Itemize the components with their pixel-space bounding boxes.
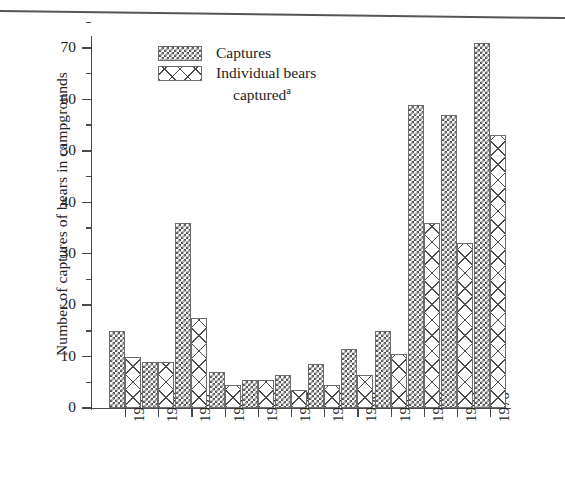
y-tick-major: 50: [82, 150, 91, 151]
bar-individual-bears: [158, 362, 174, 408]
x-tick: [490, 409, 491, 417]
bar-captures: [175, 223, 191, 408]
bar-individual-bears: [191, 318, 207, 408]
legend-item-individual-bears: Individual bearscaptureda: [158, 64, 388, 104]
y-tick-major: 70: [82, 47, 91, 48]
bar-individual-bears: [490, 135, 506, 408]
x-tick: [258, 409, 259, 417]
bar-individual-bears: [258, 380, 274, 408]
bar-individual-bears: [457, 243, 473, 408]
x-tick: [158, 409, 159, 417]
y-tick-minor: [86, 22, 92, 23]
x-tick: [291, 409, 292, 417]
bar-individual-bears: [324, 385, 340, 408]
legend-superscript: a: [286, 85, 291, 96]
bar-individual-bears: [225, 385, 241, 408]
legend-label-line2: captureda: [216, 82, 316, 104]
y-tick-label: 40: [42, 192, 76, 211]
legend: Captures Individual bearscaptureda: [158, 44, 388, 106]
y-tick-minor: [86, 382, 92, 383]
legend-label-individual-bears: Individual bearscaptureda: [216, 64, 316, 104]
bar-individual-bears: [125, 357, 141, 408]
bar-chart-figure: Number of captures of bears in campgroun…: [0, 0, 565, 483]
y-tick-label: 10: [42, 346, 76, 365]
legend-swatch-captures-icon: [158, 46, 202, 61]
x-tick: [324, 409, 325, 417]
y-tick-minor: [86, 227, 92, 228]
bar-individual-bears: [424, 223, 440, 408]
y-tick-label: 20: [42, 294, 76, 313]
bar-captures: [242, 380, 258, 408]
legend-swatch-individual-icon: [158, 66, 202, 81]
y-tick-label: 30: [42, 243, 76, 262]
bar-captures: [308, 364, 324, 408]
y-tick-minor: [86, 124, 92, 125]
y-tick-major: 20: [82, 304, 91, 305]
x-tick: [457, 409, 458, 417]
bar-captures: [408, 105, 424, 408]
x-tick: [391, 409, 392, 417]
x-tick: [424, 409, 425, 417]
bar-captures: [474, 43, 490, 408]
legend-label-line1: Individual bears: [216, 64, 316, 81]
bar-captures: [109, 331, 125, 408]
x-tick: [191, 409, 192, 417]
y-tick-label: 50: [42, 140, 76, 159]
legend-label-captures: Captures: [216, 44, 271, 62]
x-tick: [357, 409, 358, 417]
bar-captures: [275, 375, 291, 408]
y-tick-major: 60: [82, 99, 91, 100]
bar-captures: [209, 372, 225, 408]
y-tick-major: 10: [82, 356, 91, 357]
x-tick: [225, 409, 226, 417]
y-tick-major: 0: [82, 407, 91, 408]
bar-individual-bears: [391, 354, 407, 408]
bar-captures: [441, 115, 457, 408]
y-tick-minor: [86, 330, 92, 331]
bar-captures: [142, 362, 158, 408]
y-tick-label: 0: [42, 397, 76, 416]
y-tick-minor: [86, 73, 92, 74]
bar-captures: [341, 349, 357, 408]
y-tick-minor: [86, 279, 92, 280]
bar-individual-bears: [357, 375, 373, 408]
y-tick-major: 30: [82, 253, 91, 254]
bar-captures: [375, 331, 391, 408]
legend-item-captures: Captures: [158, 44, 388, 62]
y-tick-major: 40: [82, 202, 91, 203]
bar-individual-bears: [291, 390, 307, 408]
y-axis-line: [91, 36, 92, 410]
y-tick-label: 70: [42, 37, 76, 56]
x-tick: [125, 409, 126, 417]
y-tick-label: 60: [42, 89, 76, 108]
y-tick-minor: [86, 176, 92, 177]
